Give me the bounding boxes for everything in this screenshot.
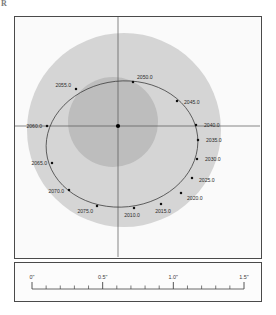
epoch-label: 2065.0	[31, 160, 47, 166]
epoch-dot	[197, 139, 200, 142]
epoch-dot	[191, 177, 194, 180]
epoch-label: 2020.0	[187, 195, 203, 201]
scale-background	[15, 263, 260, 300]
scale-tick-label: 0.5"	[98, 274, 107, 280]
epoch-label: 2060.0	[26, 123, 42, 129]
scale-tick-label: 0"	[30, 274, 35, 280]
orbit-plot-svg: 2010.02015.02020.02025.02030.02035.02040…	[15, 17, 260, 257]
epoch-dot	[176, 100, 179, 103]
epoch-label: 2030.0	[205, 156, 221, 162]
epoch-dot	[75, 88, 78, 91]
epoch-dot	[132, 81, 135, 84]
epoch-dot	[51, 162, 54, 165]
scale-bar-panel: 0"0.5"1.0"1.5"	[14, 262, 262, 302]
corner-mark: R	[1, 0, 7, 8]
epoch-label: 2045.0	[184, 99, 200, 105]
epoch-dot	[195, 124, 198, 127]
epoch-label: 2025.0	[199, 177, 215, 183]
epoch-dot	[133, 207, 136, 210]
epoch-dot	[68, 189, 71, 192]
epoch-label: 2015.0	[155, 208, 171, 214]
scale-tick-label: 1.5"	[239, 274, 248, 280]
epoch-label: 2050.0	[137, 74, 153, 80]
epoch-dot	[180, 192, 183, 195]
epoch-label: 2040.0	[204, 122, 220, 128]
epoch-label: 2070.0	[48, 188, 64, 194]
central-star-dot	[116, 124, 120, 128]
scale-tick-label: 1.0"	[169, 274, 178, 280]
epoch-label: 2075.0	[77, 208, 93, 214]
epoch-dot	[160, 203, 163, 206]
scale-bar-svg: 0"0.5"1.0"1.5"	[15, 263, 260, 300]
epoch-dot	[46, 125, 49, 128]
central-star-marker	[116, 124, 120, 128]
region-inner-core	[68, 77, 158, 167]
epoch-dot	[196, 158, 199, 161]
epoch-dot	[96, 205, 99, 208]
orbit-plot-panel: 2010.02015.02020.02025.02030.02035.02040…	[14, 16, 262, 259]
epoch-label: 2055.0	[55, 82, 71, 88]
epoch-label: 2035.0	[206, 137, 222, 143]
figure-canvas: R 2010.02015.02020.02025.02030.02035.020…	[0, 0, 276, 315]
epoch-label: 2010.0	[124, 212, 140, 218]
